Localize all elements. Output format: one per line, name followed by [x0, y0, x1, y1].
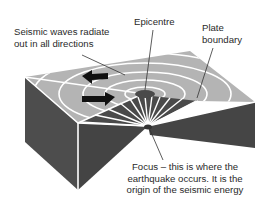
seismic-waves-label: Seismic waves radiate out in all directi… [14, 26, 109, 49]
plate-boundary-label-line-2: boundary [202, 34, 242, 46]
focus-label-line-1: Focus – this is where the [105, 161, 265, 173]
seismic-waves-label-line-1: Seismic waves radiate [14, 26, 109, 38]
epicentre-label-text: Epicentre [134, 16, 175, 28]
focus-label-line-3: origin of the seismic energy [105, 184, 265, 196]
focus-label-line-2: earthquake occurs. It is the [105, 173, 265, 185]
focus-marker [144, 125, 152, 130]
epicentre-marker [135, 90, 155, 98]
seismic-waves-label-line-2: out in all directions [14, 38, 109, 50]
plate-boundary-label: Plate boundary [202, 22, 242, 45]
plate-boundary-label-line-1: Plate [202, 22, 242, 34]
focus-label: Focus – this is where the earthquake occ… [105, 161, 265, 196]
epicentre-label: Epicentre [134, 16, 175, 28]
